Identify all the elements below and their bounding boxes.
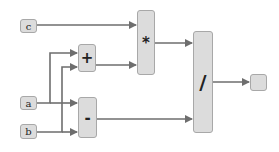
node-label: + <box>81 49 94 67</box>
input-node-c: c <box>20 19 37 33</box>
edge-b-to-add <box>37 67 77 132</box>
edge-a-to-add <box>37 53 77 103</box>
node-label: / <box>199 70 206 94</box>
output-node <box>250 74 267 91</box>
node-label: a <box>26 98 32 109</box>
op-node-sub: - <box>78 97 97 138</box>
op-node-add: + <box>78 44 96 72</box>
node-label: - <box>84 109 90 127</box>
op-node-div: / <box>193 31 213 133</box>
op-node-mul: * <box>137 10 155 75</box>
input-node-b: b <box>20 124 37 139</box>
input-node-a: a <box>20 96 37 110</box>
node-label: * <box>142 34 150 52</box>
node-label: b <box>25 126 31 137</box>
node-label: c <box>26 21 32 32</box>
